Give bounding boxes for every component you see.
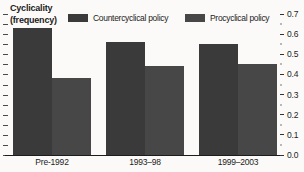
bars-container — [13, 14, 277, 155]
y-minor-tick — [280, 124, 282, 125]
bar-group-pre-1992 — [13, 14, 91, 155]
left-axis-tick — [3, 115, 8, 116]
y-axis-right: 0.70.60.50.40.30.20.10.0 — [280, 14, 304, 155]
y-tick-dash — [280, 14, 284, 15]
left-axis-tick — [3, 74, 8, 75]
bar-procyclical-policy-1993-98 — [145, 66, 184, 155]
y-tick-0.7: 0.7 — [280, 9, 298, 19]
x-axis-line — [5, 155, 281, 156]
left-axis-tick — [3, 34, 8, 35]
left-axis-tick — [3, 145, 8, 146]
cyclicality-bar-chart: Cyclicality (frequency) Countercyclical … — [0, 0, 304, 172]
y-tick-dash — [280, 155, 284, 156]
x-axis-label-pre-1992: Pre-1992 — [13, 157, 91, 167]
y-tick-dash — [280, 134, 284, 135]
left-axis-tick — [3, 85, 8, 86]
bar-procyclical-policy-1999-2003 — [238, 64, 277, 155]
chart-title-line1: Cyclicality — [10, 3, 57, 15]
left-axis-tick — [3, 125, 8, 126]
y-tick-dash — [280, 34, 284, 35]
bar-group-1999-2003 — [199, 14, 277, 155]
y-tick-dash — [280, 94, 284, 95]
left-axis-tick — [3, 24, 8, 25]
y-tick-label: 0.1 — [287, 130, 298, 140]
y-minor-tick — [280, 24, 282, 25]
bar-countercyclical-policy-pre-1992 — [13, 28, 52, 155]
y-minor-tick — [280, 64, 282, 65]
y-tick-0.2: 0.2 — [280, 110, 298, 120]
y-axis-left-ticks — [3, 14, 9, 155]
y-tick-0.4: 0.4 — [280, 69, 298, 79]
y-tick-label: 0.6 — [287, 29, 298, 39]
y-tick-0.3: 0.3 — [280, 90, 298, 100]
x-axis-label-1993-98: 1993–98 — [106, 157, 184, 167]
bar-group-1993-98 — [106, 14, 184, 155]
y-minor-tick — [280, 144, 282, 145]
y-tick-label: 0.2 — [287, 110, 298, 120]
y-tick-label: 0.0 — [287, 150, 298, 160]
plot-area — [13, 14, 277, 155]
y-tick-0.6: 0.6 — [280, 29, 298, 39]
left-axis-tick — [3, 44, 8, 45]
y-tick-label: 0.3 — [287, 90, 298, 100]
y-tick-dash — [280, 54, 284, 55]
y-minor-tick — [280, 44, 282, 45]
left-axis-tick — [3, 95, 8, 96]
y-tick-label: 0.7 — [287, 9, 298, 19]
left-axis-tick — [3, 135, 8, 136]
y-minor-tick — [280, 84, 282, 85]
y-tick-dash — [280, 114, 284, 115]
y-tick-label: 0.4 — [287, 69, 298, 79]
y-tick-0.5: 0.5 — [280, 49, 298, 59]
bar-countercyclical-policy-1993-98 — [106, 42, 145, 155]
x-axis-label-1999-2003: 1999–2003 — [199, 157, 277, 167]
bar-procyclical-policy-pre-1992 — [52, 78, 91, 155]
bar-countercyclical-policy-1999-2003 — [199, 44, 238, 155]
left-axis-tick — [3, 14, 8, 15]
left-axis-tick — [3, 105, 8, 106]
y-tick-dash — [280, 74, 284, 75]
y-minor-tick — [280, 104, 282, 105]
y-tick-label: 0.5 — [287, 49, 298, 59]
left-axis-tick — [3, 64, 8, 65]
x-axis-labels: Pre-19921993–981999–2003 — [13, 157, 277, 167]
y-tick-0.1: 0.1 — [280, 130, 298, 140]
left-axis-tick — [3, 54, 8, 55]
y-tick-0.0: 0.0 — [280, 150, 298, 160]
